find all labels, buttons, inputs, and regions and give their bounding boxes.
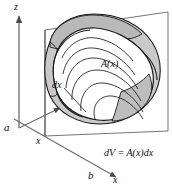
cross-section-area-label: A(x) (101, 59, 118, 69)
figure-canvas (0, 0, 172, 191)
upper-limit-label-b: b (88, 170, 94, 181)
lower-limit-label-a: a (4, 122, 10, 133)
x-position-label: x (36, 136, 40, 146)
volume-equation-label: dV = A(x)dx (104, 148, 153, 158)
x-axis-label: x (113, 175, 117, 185)
slice-thickness-label: dx (52, 80, 61, 90)
volume-cross-section-figure: z a x b x dx A(x) dV = A(x)dx (0, 0, 172, 191)
z-axis-label: z (14, 2, 18, 12)
